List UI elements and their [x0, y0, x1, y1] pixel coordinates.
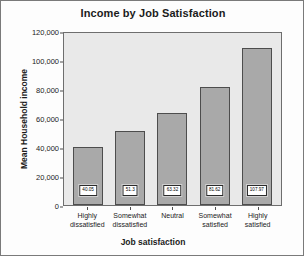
y-axis-tick-label: 100,000 [32, 57, 63, 66]
x-axis-tick-line: Neutral [151, 212, 193, 221]
y-axis-tick-label: 80,000 [36, 86, 63, 95]
y-axis-tick-label: 120,000 [32, 28, 63, 37]
bar-value-label: 51.3 [123, 185, 138, 196]
x-axis-tick-label: Highlydissatisfied [66, 207, 108, 235]
bar-value-label: 81.62 [206, 185, 224, 196]
x-axis-tick-line: Highly [66, 212, 108, 221]
y-axis-tick-label: 60,000 [36, 115, 63, 124]
x-axis-tick-line: Somewhat [109, 212, 151, 221]
x-axis-tick-line: dissatisfied [109, 221, 151, 230]
bar[interactable]: 107.97 [242, 48, 272, 205]
chart-title: Income by Job Satisfaction [1, 7, 304, 19]
x-axis: HighlydissatisfiedSomewhatdissatisfiedNe… [63, 207, 282, 235]
x-axis-tick-label: Neutral [151, 207, 193, 235]
bar[interactable]: 51.3 [115, 131, 145, 205]
bar[interactable]: 63.32 [157, 113, 187, 205]
x-axis-tick-line: satisfied [194, 221, 236, 230]
bar-slot: 63.32 [157, 33, 187, 205]
y-axis-tick-label: 20,000 [36, 173, 63, 182]
bar-value-label: 40.05 [79, 185, 97, 196]
x-axis-title: Job satisfaction [1, 237, 304, 247]
y-axis-tick-label: 0 [55, 202, 63, 211]
bar[interactable]: 40.05 [73, 147, 103, 205]
bar-slot: 40.05 [73, 33, 103, 205]
bar[interactable]: 81.62 [200, 87, 230, 205]
bar-slot: 51.3 [115, 33, 145, 205]
x-axis-tick-line: dissatisfied [66, 221, 108, 230]
x-axis-tick-label: Somewhatsatisfied [194, 207, 236, 235]
bar-value-label: 63.32 [164, 185, 182, 196]
plot-area: 40.0551.363.3281.62107.97 [63, 32, 282, 206]
x-axis-tick-label: Somewhatdissatisfied [109, 207, 151, 235]
x-axis-tick-label: Highlysatisfied [237, 207, 279, 235]
x-axis-tick-line: Somewhat [194, 212, 236, 221]
x-axis-tick-line: satisfied [237, 221, 279, 230]
bar-series: 40.0551.363.3281.62107.97 [64, 33, 281, 205]
bar-slot: 107.97 [242, 33, 272, 205]
bar-slot: 81.62 [200, 33, 230, 205]
y-axis-tick-label: 40,000 [36, 144, 63, 153]
chart-figure: Income by Job Satisfaction Mean Househol… [0, 0, 304, 256]
bar-value-label: 107.97 [247, 185, 267, 196]
x-axis-tick-line: Highly [237, 212, 279, 221]
y-axis: 120,000100,00080,00060,00040,00020,0000 [1, 32, 63, 206]
